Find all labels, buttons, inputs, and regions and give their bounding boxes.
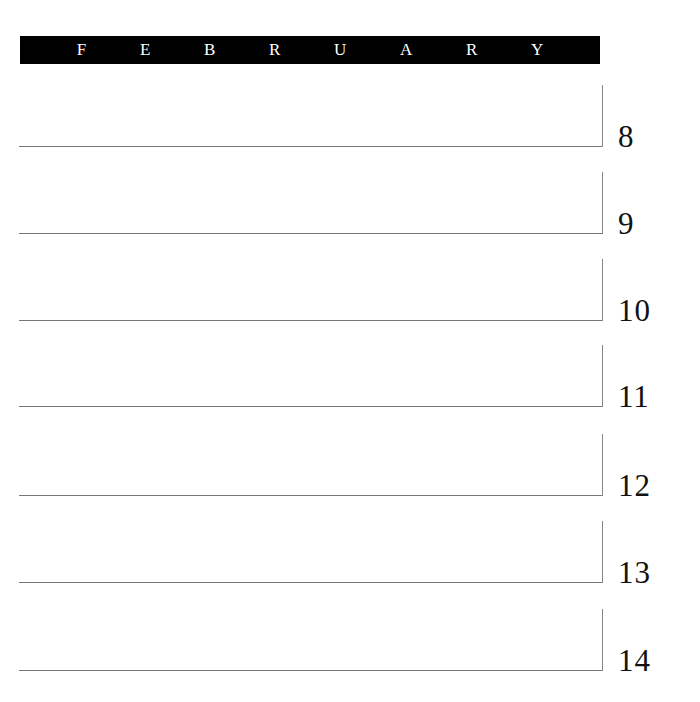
day-entry-13[interactable]: 13 <box>19 521 603 583</box>
day-entry-9[interactable]: 9 <box>19 172 603 234</box>
day-entry-14[interactable]: 14 <box>19 609 603 671</box>
month-letter: B <box>204 40 215 60</box>
divider-line <box>602 434 603 496</box>
divider-line <box>602 85 603 147</box>
day-entry-10[interactable]: 10 <box>19 259 603 321</box>
day-number: 11 <box>618 379 650 415</box>
month-banner: F E B R U A R Y <box>20 36 600 64</box>
write-line <box>19 670 603 671</box>
day-number: 10 <box>618 293 651 329</box>
month-letter: E <box>140 40 150 60</box>
day-entry-11[interactable]: 11 <box>19 345 603 407</box>
divider-line <box>602 521 603 583</box>
day-number: 13 <box>618 555 651 591</box>
divider-line <box>602 609 603 671</box>
month-letter: F <box>77 40 86 60</box>
write-line <box>19 233 603 234</box>
day-entry-8[interactable]: 8 <box>19 85 603 147</box>
day-number: 8 <box>618 119 635 155</box>
divider-line <box>602 259 603 321</box>
month-letter: R <box>466 40 477 60</box>
divider-line <box>602 345 603 407</box>
day-number: 12 <box>618 468 651 504</box>
month-letter: U <box>334 40 346 60</box>
month-letter: R <box>269 40 280 60</box>
divider-line <box>602 172 603 234</box>
write-line <box>19 406 603 407</box>
month-letter: Y <box>531 40 543 60</box>
write-line <box>19 495 603 496</box>
day-number: 14 <box>618 643 651 679</box>
write-line <box>19 146 603 147</box>
day-entry-12[interactable]: 12 <box>19 434 603 496</box>
write-line <box>19 320 603 321</box>
day-number: 9 <box>618 206 635 242</box>
write-line <box>19 582 603 583</box>
month-letter: A <box>400 40 412 60</box>
